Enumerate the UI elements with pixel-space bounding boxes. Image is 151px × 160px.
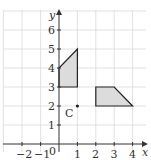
x-tick-label: 4	[129, 148, 136, 160]
x-axis-label: x	[142, 146, 149, 159]
x-tick-label: −2	[16, 148, 32, 160]
y-tick-label: 2	[48, 100, 55, 113]
x-tick-label: −1	[34, 148, 50, 160]
origin-label: 0	[49, 145, 56, 158]
y-tick-label: 3	[48, 81, 55, 94]
y-axis-label: y	[48, 9, 56, 22]
y-tick-label: 6	[48, 24, 55, 37]
coordinate-diagram: −2 −1 0 1 2 3 4 x 1 2 3 4 5 6 y C	[0, 0, 151, 160]
x-tick-label: 2	[92, 148, 99, 160]
x-tick-label: 1	[74, 148, 81, 160]
coordinate-grid-svg: −2 −1 0 1 2 3 4 x 1 2 3 4 5 6 y C	[0, 0, 151, 160]
shape-b-trapezium	[96, 87, 133, 106]
y-tick-label: 1	[48, 119, 55, 132]
x-tick-label: 3	[111, 148, 118, 160]
point-c-dot	[76, 104, 79, 107]
point-c-label: C	[65, 107, 73, 120]
y-tick-label: 5	[48, 43, 55, 56]
shape-a-quadrilateral	[59, 49, 77, 87]
y-tick-label: 4	[48, 62, 55, 75]
y-axis-arrow-icon	[56, 9, 62, 15]
